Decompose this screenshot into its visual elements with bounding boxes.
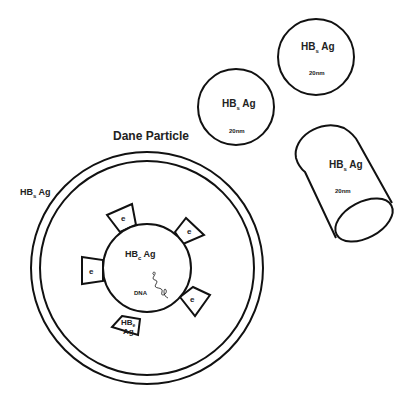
filament-size: 20nm: [335, 188, 351, 194]
hbe-label-line2: Ag: [123, 327, 134, 336]
sphere-1-size: 20nm: [309, 70, 325, 76]
dane-particle-title: Dane Particle: [113, 129, 189, 143]
sphere-2-label: HBs Ag: [222, 98, 256, 111]
small-sphere-1: HBs Ag 20nm: [278, 19, 354, 95]
filament-particle: HBs Ag 20nm: [296, 125, 400, 250]
e-label-2: e: [187, 227, 192, 236]
e-label-4: e: [190, 295, 195, 304]
small-sphere-2: HBs Ag 20nm: [198, 69, 274, 145]
dna-label: DNA: [134, 290, 148, 296]
filament-label: HBs Ag: [329, 159, 363, 172]
envelope-label: HBs Ag: [20, 187, 51, 199]
hbv-diagram: HBs Ag 20nm HBs Ag 20nm HBs Ag 20nm Dane…: [0, 0, 413, 404]
sphere-2-size: 20nm: [229, 128, 245, 134]
core-capsid: [103, 224, 191, 312]
e-label-1: e: [121, 214, 126, 223]
e-label-3: e: [89, 267, 94, 276]
sphere-1-label: HBs Ag: [301, 41, 335, 54]
